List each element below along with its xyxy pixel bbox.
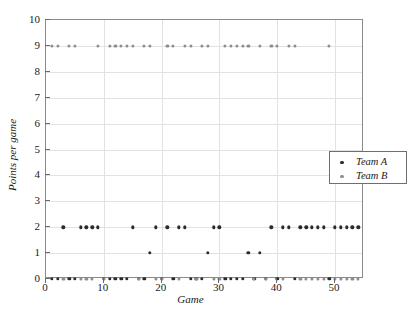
y-tick-mark bbox=[45, 71, 50, 72]
y-tick-mark bbox=[45, 200, 50, 201]
y-tick-mark bbox=[45, 149, 50, 150]
x-axis-title: Game bbox=[0, 293, 381, 305]
y-tick-mark bbox=[45, 97, 50, 98]
x-tick-mark bbox=[218, 278, 219, 283]
y-tick-mark bbox=[45, 123, 50, 124]
x-tick-mark bbox=[334, 278, 335, 283]
y-tick-label: 0 bbox=[10, 272, 40, 284]
x-tick-mark bbox=[103, 278, 104, 283]
y-tick-label: 1 bbox=[10, 246, 40, 258]
y-tick-mark bbox=[45, 252, 50, 253]
y-tick-mark bbox=[45, 45, 50, 46]
y-tick-label: 9 bbox=[10, 39, 40, 51]
x-tick-mark bbox=[276, 278, 277, 283]
y-tick-mark bbox=[45, 174, 50, 175]
y-tick-label: 10 bbox=[10, 13, 40, 25]
x-tick-mark bbox=[161, 278, 162, 283]
y-tick-label: 8 bbox=[10, 65, 40, 77]
x-tick-mark bbox=[45, 278, 46, 283]
y-axis-title: Points per game bbox=[6, 85, 18, 225]
y-tick-mark bbox=[45, 19, 50, 20]
y-tick-mark bbox=[45, 226, 50, 227]
